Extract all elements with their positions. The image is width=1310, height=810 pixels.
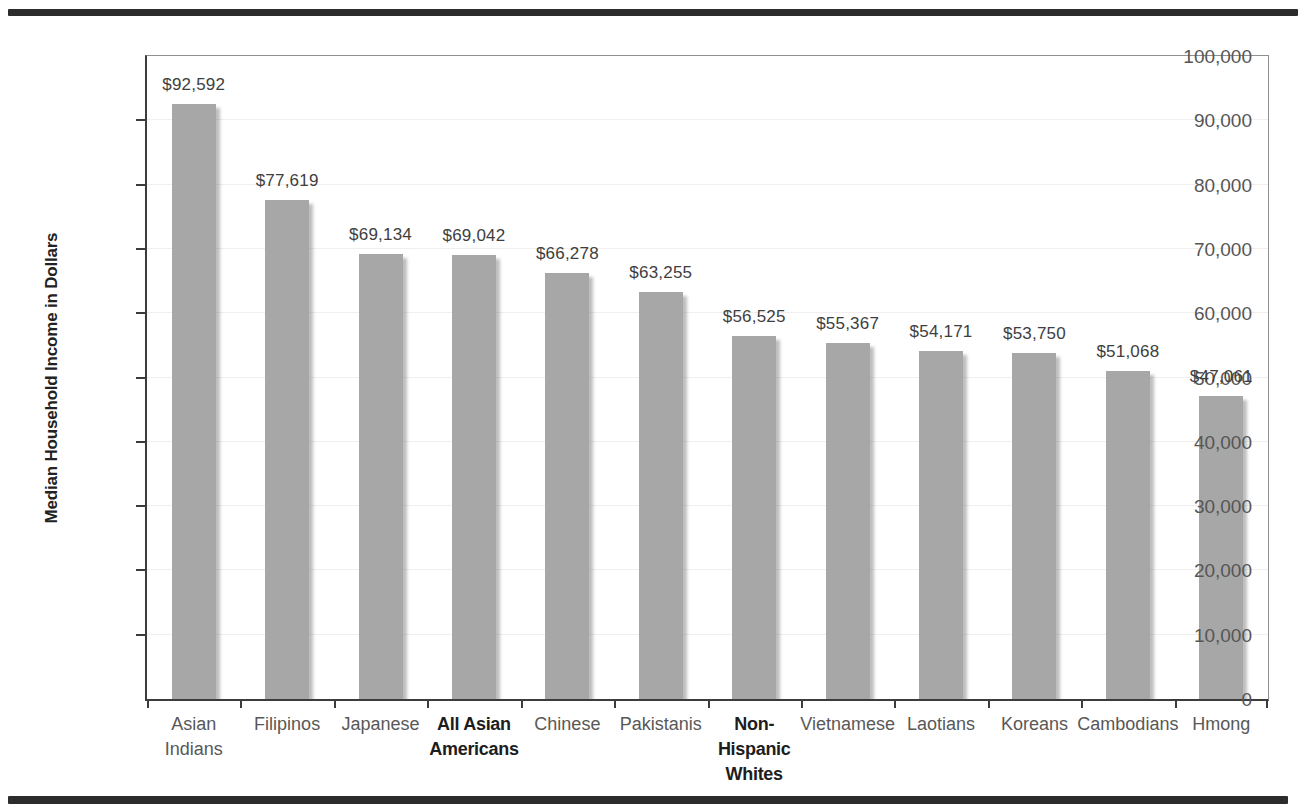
bars-layer bbox=[147, 56, 1268, 699]
x-category-label-line: Laotians bbox=[907, 712, 975, 737]
bar-value-label: $53,750 bbox=[1003, 324, 1066, 344]
y-axis-tick bbox=[136, 184, 145, 186]
bar-chinese bbox=[545, 273, 589, 699]
y-axis-tick-label: 30,000 bbox=[1194, 496, 1252, 518]
bar-value-label: $54,171 bbox=[910, 322, 973, 342]
figure: Median Household Income in Dollars 010,0… bbox=[0, 0, 1310, 810]
x-category-label: Laotians bbox=[907, 712, 975, 737]
bar-value-label: $77,619 bbox=[256, 171, 319, 191]
bar-laotians bbox=[919, 351, 963, 699]
y-axis-tick-label: 80,000 bbox=[1194, 175, 1252, 197]
x-category-label-line: Koreans bbox=[1001, 712, 1068, 737]
x-category-label-line: Filipinos bbox=[254, 712, 320, 737]
x-category-label-line: Vietnamese bbox=[800, 712, 895, 737]
plot-area: 010,00020,00030,00040,00050,00060,00070,… bbox=[145, 55, 1269, 701]
bar-value-label: $56,525 bbox=[723, 307, 786, 327]
x-category-label-line: Japanese bbox=[341, 712, 419, 737]
bar-cambodians bbox=[1106, 371, 1150, 699]
y-axis-tick-label: 60,000 bbox=[1194, 303, 1252, 325]
x-category-label: Non-HispanicWhites bbox=[718, 712, 791, 787]
x-axis-tick bbox=[1081, 699, 1083, 708]
gridline bbox=[147, 569, 1268, 570]
x-axis-tick bbox=[1266, 699, 1268, 708]
x-category-label-line: Pakistanis bbox=[620, 712, 702, 737]
bar-value-label: $47,061 bbox=[1190, 367, 1253, 387]
gridline bbox=[147, 119, 1268, 120]
bar-value-label: $92,592 bbox=[162, 75, 225, 95]
y-axis-tick bbox=[136, 377, 145, 379]
x-axis-tick bbox=[614, 699, 616, 708]
x-category-label-line: Hmong bbox=[1192, 712, 1250, 737]
x-category-label: Cambodians bbox=[1077, 712, 1178, 737]
y-axis-tick bbox=[136, 441, 145, 443]
bar-value-label: $51,068 bbox=[1096, 342, 1159, 362]
y-axis-tick bbox=[136, 119, 145, 121]
bar-vietnamese bbox=[826, 343, 870, 699]
bar-japanese bbox=[359, 254, 403, 699]
x-category-label: Chinese bbox=[534, 712, 600, 737]
x-axis-tick bbox=[240, 699, 242, 708]
gridline bbox=[147, 634, 1268, 635]
x-category-label: Pakistanis bbox=[620, 712, 702, 737]
x-category-label-line: Cambodians bbox=[1077, 712, 1178, 737]
bar-value-label: $55,367 bbox=[816, 314, 879, 334]
y-axis-tick-label: 40,000 bbox=[1194, 432, 1252, 454]
x-category-label-line: Chinese bbox=[534, 712, 600, 737]
bar-non-hispanic-whites bbox=[732, 336, 776, 699]
y-axis-tick bbox=[136, 312, 145, 314]
x-category-label-line: Non- bbox=[718, 712, 791, 737]
x-category-label: All AsianAmericans bbox=[429, 712, 518, 762]
x-axis-tick bbox=[147, 699, 149, 708]
bar-value-label: $69,042 bbox=[443, 226, 506, 246]
gridline bbox=[147, 312, 1268, 313]
x-category-label-line: Whites bbox=[718, 762, 791, 787]
x-category-label-line: Hispanic bbox=[718, 737, 791, 762]
y-axis-tick-label: 100,000 bbox=[1183, 46, 1252, 68]
top-rule-divider bbox=[8, 9, 1298, 16]
bar-all-asian-americans bbox=[452, 255, 496, 699]
bar-koreans bbox=[1012, 353, 1056, 699]
x-category-label: Vietnamese bbox=[800, 712, 895, 737]
x-category-label: Hmong bbox=[1192, 712, 1250, 737]
x-axis-tick bbox=[1175, 699, 1177, 708]
bar-value-label: $69,134 bbox=[349, 225, 412, 245]
x-category-label-line: All Asian bbox=[429, 712, 518, 737]
y-axis-tick-label: 90,000 bbox=[1194, 110, 1252, 132]
y-axis-tick bbox=[136, 634, 145, 636]
bar-value-label: $63,255 bbox=[629, 263, 692, 283]
gridline bbox=[147, 248, 1268, 249]
y-axis-tick-label: 0 bbox=[1241, 689, 1252, 711]
x-category-label: Filipinos bbox=[254, 712, 320, 737]
x-category-label: Koreans bbox=[1001, 712, 1068, 737]
gridline bbox=[147, 377, 1268, 378]
bar-asian-indians bbox=[172, 104, 216, 699]
x-category-label-line: Indians bbox=[165, 737, 223, 762]
y-axis-tick bbox=[136, 248, 145, 250]
y-axis-tick bbox=[136, 569, 145, 571]
y-axis-tick-label: 20,000 bbox=[1194, 560, 1252, 582]
x-axis-tick bbox=[988, 699, 990, 708]
x-category-label: AsianIndians bbox=[165, 712, 223, 762]
x-category-label-line: Americans bbox=[429, 737, 518, 762]
gridline bbox=[147, 441, 1268, 442]
gridline bbox=[147, 505, 1268, 506]
x-axis-tick bbox=[801, 699, 803, 708]
x-axis-tick bbox=[427, 699, 429, 708]
y-axis-title: Median Household Income in Dollars bbox=[42, 233, 62, 524]
bar-filipinos bbox=[265, 200, 309, 699]
x-category-label-line: Asian bbox=[165, 712, 223, 737]
bottom-rule-divider bbox=[8, 796, 1288, 804]
y-axis-tick bbox=[136, 505, 145, 507]
bar-value-label: $66,278 bbox=[536, 244, 599, 264]
x-category-label: Japanese bbox=[341, 712, 419, 737]
x-axis-tick bbox=[708, 699, 710, 708]
x-axis-tick bbox=[521, 699, 523, 708]
y-axis-tick-label: 70,000 bbox=[1194, 239, 1252, 261]
x-axis-tick bbox=[894, 699, 896, 708]
y-axis-tick-label: 10,000 bbox=[1194, 625, 1252, 647]
x-axis-tick bbox=[334, 699, 336, 708]
bar-pakistanis bbox=[639, 292, 683, 699]
